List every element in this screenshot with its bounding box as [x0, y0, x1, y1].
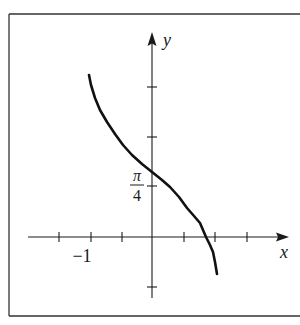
frame	[9, 14, 300, 316]
x-tick-label-minus-one: −1	[72, 246, 91, 266]
function-curve	[89, 75, 217, 274]
x-axis-label: x	[279, 242, 288, 262]
graph-figure: y x −1 π 4	[0, 0, 300, 325]
pi-denominator: 4	[133, 187, 141, 204]
y-axis	[147, 32, 157, 298]
pi-numerator: π	[133, 167, 142, 184]
y-axis-label: y	[161, 30, 171, 50]
x-axis	[28, 232, 289, 242]
y-tick-label-pi-over-4: π 4	[130, 167, 144, 204]
